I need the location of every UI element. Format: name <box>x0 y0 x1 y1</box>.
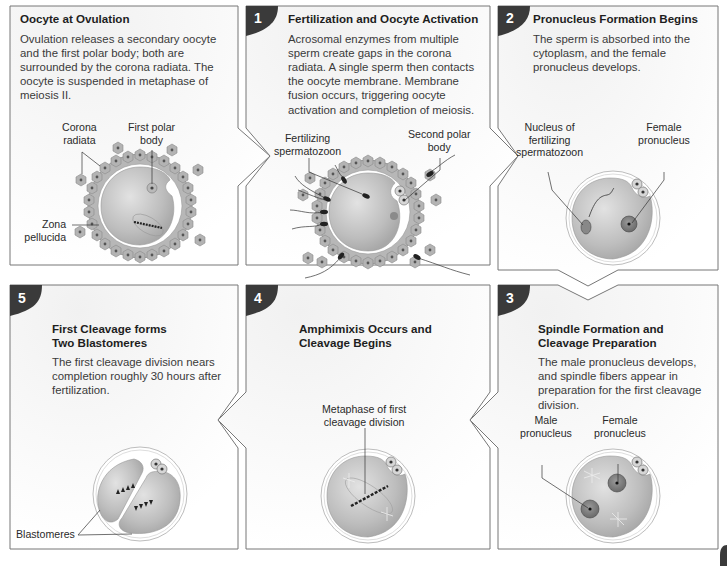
panel-description: The male pronucleus develops, and spindl… <box>538 355 716 412</box>
label-zona-pellucida: Zonapellucida <box>22 218 66 243</box>
panel-fertilization-text: Fertilization and Oocyte Activation Acro… <box>288 12 488 117</box>
page-corner-tab <box>720 545 727 566</box>
panel-title: Amphimixis Occurs andCleavage Begins <box>299 322 479 349</box>
step-number-2: 2 <box>506 10 514 26</box>
panel-amphimixis-text: Amphimixis Occurs andCleavage Begins <box>299 322 479 349</box>
label-first-polar-body: First polarbody <box>128 121 175 146</box>
step-number-1: 1 <box>254 10 262 26</box>
panel-title: Fertilization and Oocyte Activation <box>288 12 488 26</box>
label-metaphase-of-first-cleavage: Metaphase of firstcleavage division <box>322 403 406 428</box>
label-male-pronucleus: Malepronucleus <box>520 414 572 439</box>
label-female-pronucleus: Femalepronucleus <box>638 121 690 146</box>
panel-title: First Cleavage formsTwo Blastomeres <box>52 322 234 349</box>
metaphase-illustration <box>321 449 415 543</box>
label-blastomeres: Blastomeres <box>16 528 75 541</box>
panel-description: Ovulation releases a secondary oocyte an… <box>20 32 232 103</box>
label-nucleus-of-fertilizing-spermatozoon: Nucleus offertilizingspermatozoon <box>516 121 583 159</box>
step-number-4: 4 <box>254 290 262 306</box>
label-second-polar-body: Second polarbody <box>408 128 470 153</box>
blastomeres-illustration <box>93 447 187 541</box>
panel-pronucleus-text: Pronucleus Formation Begins The sperm is… <box>533 12 713 74</box>
pronucleus-illustration <box>566 171 660 265</box>
panel-title: Spindle Formation andCleavage Preparatio… <box>538 322 716 349</box>
spindle-illustration <box>566 449 660 543</box>
panel-spindle-text: Spindle Formation andCleavage Preparatio… <box>538 322 716 412</box>
panel-cleavage-text: First Cleavage formsTwo Blastomeres The … <box>52 322 234 398</box>
panel-title: Oocyte at Ovulation <box>20 12 232 26</box>
panel-description: The first cleavage division nears comple… <box>52 355 234 398</box>
label-female-pronucleus: Femalepronucleus <box>594 414 646 439</box>
panel-title: Pronucleus Formation Begins <box>533 12 713 26</box>
step-number-5: 5 <box>18 290 26 306</box>
label-corona-radiata: Coronaradiata <box>62 121 97 146</box>
panel-description: Acrosomal enzymes from multiple sperm cr… <box>288 32 488 117</box>
step-number-3: 3 <box>506 290 514 306</box>
panel-oocyte-text: Oocyte at Ovulation Ovulation releases a… <box>20 12 232 103</box>
panel-description: The sperm is absorbed into the cytoplasm… <box>533 32 713 75</box>
label-fertilizing-spermatozoon: Fertilizingspermatozoon <box>274 132 341 157</box>
